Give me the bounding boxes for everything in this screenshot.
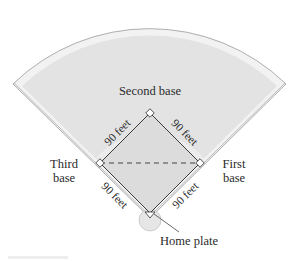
first-base-label-line1: First	[223, 157, 246, 171]
cut-off-caption-trace	[8, 256, 68, 259]
baseball-field-diagram: Second base Third base First base Home p…	[0, 0, 298, 261]
first-base-label-line2: base	[223, 171, 246, 185]
second-base-label: Second base	[119, 84, 182, 98]
third-base-label-line2: base	[53, 171, 76, 185]
third-base-label-line1: Third	[50, 157, 79, 171]
home-plate-label: Home plate	[160, 234, 218, 248]
